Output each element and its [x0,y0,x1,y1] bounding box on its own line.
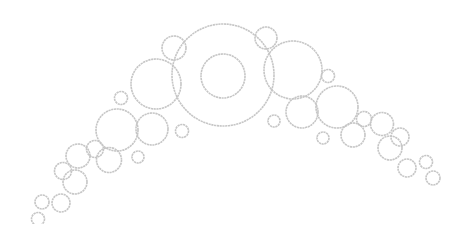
bubble-circle [398,159,416,177]
bubble-circle [162,36,186,60]
bubble-circle [35,195,49,209]
bubble-circle [97,148,122,173]
bubble-circle [87,141,104,158]
bubble-circle [268,115,280,127]
bubble-circle [66,144,90,168]
bubble-circle [378,136,402,160]
bubble-circle [322,70,335,83]
bubble-circle [115,92,128,105]
bubble-circle [341,123,365,147]
bubble-circle [286,96,318,128]
bubble-circle [426,171,440,185]
bubble-circle [32,213,45,225]
bubble-circle [63,170,87,194]
bubble-circle [420,156,433,169]
bubble-circle [136,113,168,145]
bubble-circle [132,151,144,163]
bubble-circle [201,54,245,98]
bubble-circle [316,86,358,128]
bubble-circle [317,132,329,144]
bubble-arc-graphic [0,0,466,224]
bubble-circle [264,41,322,99]
bubble-arc-svg [0,0,466,224]
bubble-circle [371,113,394,136]
bubble-circle [176,125,189,138]
bubble-circle [52,194,70,212]
bubble-circle [172,24,274,126]
bubble-circle [131,59,181,109]
bubble-circle [55,163,72,180]
